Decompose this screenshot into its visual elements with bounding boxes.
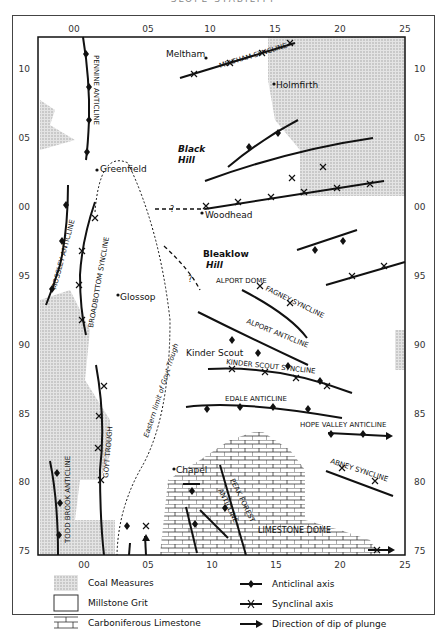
svg-text:95: 95	[414, 271, 425, 281]
svg-text:75: 75	[414, 546, 425, 556]
svg-text:10: 10	[206, 560, 218, 570]
svg-text:00: 00	[78, 560, 90, 570]
svg-text:FAGNEY SYNCLINE: FAGNEY SYNCLINE	[264, 285, 325, 320]
svg-text:80: 80	[19, 477, 31, 487]
svg-text:KINDER SCOUT SYNCLINE: KINDER SCOUT SYNCLINE	[226, 358, 316, 375]
svg-text:20: 20	[334, 560, 346, 570]
svg-text:85: 85	[414, 409, 425, 419]
svg-text:00: 00	[68, 24, 80, 34]
limestone-swatch	[54, 617, 78, 628]
svg-text:15: 15	[269, 24, 280, 34]
label-chapel: Chapel	[176, 465, 207, 475]
svg-text:Direction of dip of plunge: Direction of dip of plunge	[272, 619, 387, 629]
label-glossop: Glossop	[120, 292, 156, 302]
label-holmfirth: Holmfirth	[276, 80, 318, 90]
y-axis-right: 10 05 00 95 90 85 80 75	[414, 64, 426, 556]
svg-text:90: 90	[19, 340, 31, 350]
svg-text:HOPE VALLEY ANTICLINE: HOPE VALLEY ANTICLINE	[300, 421, 386, 429]
svg-text:Coal Measures: Coal Measures	[88, 578, 154, 588]
label-meltham: Meltham	[166, 49, 205, 59]
svg-text:TODD BROOK ANTICLINE: TODD BROOK ANTICLINE	[64, 456, 72, 544]
svg-text:00: 00	[414, 202, 426, 212]
svg-text:85: 85	[19, 409, 30, 419]
svg-text:Bleaklow: Bleaklow	[203, 249, 249, 259]
eastern-limit-line	[95, 161, 170, 555]
svg-text:EDALE ANTICLINE: EDALE ANTICLINE	[225, 395, 287, 403]
geological-map: 00 05 10 15 20 25 00 05 10 15 20 25 10 0…	[0, 0, 447, 640]
svg-text:Hill: Hill	[206, 260, 224, 270]
svg-text:95: 95	[19, 271, 30, 281]
svg-text:Black: Black	[178, 144, 206, 154]
svg-text:75: 75	[19, 546, 30, 556]
svg-text:Millstone Grit: Millstone Grit	[88, 598, 148, 608]
svg-text:?: ?	[170, 205, 174, 214]
coal-swatch	[54, 575, 78, 591]
svg-text:BROADBOTTOM SYNCLINE: BROADBOTTOM SYNCLINE	[87, 236, 111, 328]
svg-text:MOSSLEY ANTICLINE: MOSSLEY ANTICLINE	[50, 219, 76, 291]
svg-text:Synclinal axis: Synclinal axis	[272, 599, 334, 609]
svg-text:ABNEY SYNCLINE: ABNEY SYNCLINE	[329, 457, 389, 483]
svg-text:20: 20	[334, 24, 346, 34]
grit-swatch	[54, 595, 78, 611]
svg-text:05: 05	[142, 24, 153, 34]
label-woodhead: Woodhead	[205, 210, 253, 220]
svg-text:15: 15	[270, 560, 281, 570]
svg-text:Eastern limit of Goyt Trough: Eastern limit of Goyt Trough	[142, 342, 180, 438]
svg-text:Anticlinal axis: Anticlinal axis	[272, 579, 335, 589]
svg-text:25: 25	[399, 24, 410, 34]
svg-text:05: 05	[19, 133, 30, 143]
legend: Coal Measures Millstone Grit Carbonifero…	[54, 575, 387, 629]
svg-text:90: 90	[414, 340, 426, 350]
svg-text:Carboniferous Limestone: Carboniferous Limestone	[88, 618, 201, 628]
svg-text:80: 80	[414, 477, 426, 487]
svg-text:LIMESTONE DOME: LIMESTONE DOME	[258, 526, 331, 535]
place-markers	[95, 56, 275, 470]
svg-text:10: 10	[204, 24, 216, 34]
svg-text:05: 05	[142, 560, 153, 570]
svg-text:25: 25	[399, 560, 410, 570]
svg-text:10: 10	[414, 64, 426, 74]
svg-text:10: 10	[19, 64, 31, 74]
label-greenfield: Greenfield	[100, 164, 147, 174]
svg-text:Hill: Hill	[178, 155, 196, 165]
svg-text:00: 00	[19, 202, 31, 212]
x-axis-top: 00 05 10 15 20 25	[68, 24, 410, 34]
dashed-lines	[155, 209, 205, 290]
label-kinder-scout: Kinder Scout	[186, 348, 244, 358]
y-axis-left: 10 05 00 95 90 85 80 75	[19, 64, 31, 556]
svg-text:05: 05	[414, 133, 425, 143]
x-axis-bottom: 00 05 10 15 20 25	[78, 560, 410, 570]
svg-text:PENNINE ANTICLINE: PENNINE ANTICLINE	[92, 55, 100, 125]
svg-text:ALPORT ANTICLINE: ALPORT ANTICLINE	[245, 317, 309, 349]
svg-text:?: ?	[188, 275, 192, 284]
svg-text:ALPORT DOME: ALPORT DOME	[216, 277, 267, 285]
